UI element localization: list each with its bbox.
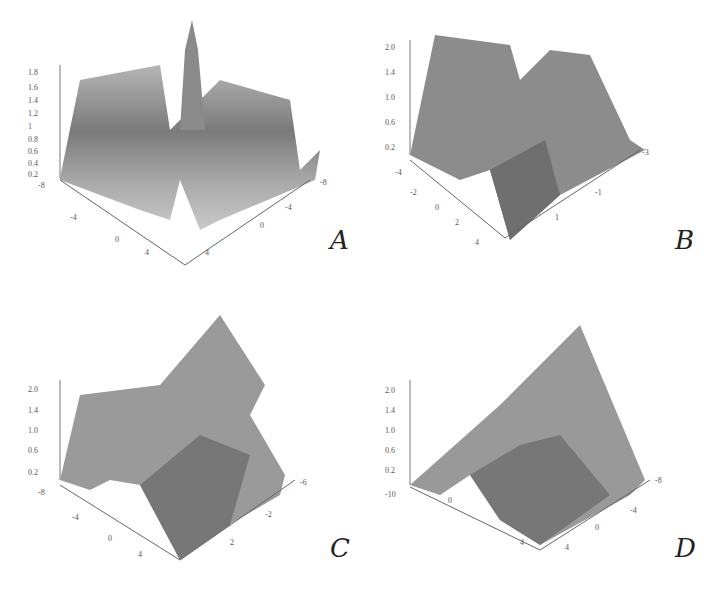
t-tick: -4: [630, 506, 637, 515]
t-tick: 1: [555, 213, 559, 222]
t-tick: -6: [300, 478, 307, 487]
x-tick: -8: [38, 488, 45, 497]
surface-plot-c: 2.0 1.4 1.0 0.6 0.2 -8 -4 0 4 -6 -2 2: [20, 305, 360, 565]
z-tick: 0.2: [385, 466, 395, 475]
t-tick: 2: [230, 538, 234, 547]
z-tick: 1.0: [385, 426, 395, 435]
x-tick: 0: [435, 203, 439, 212]
x-tick: -4: [70, 213, 77, 222]
z-tick: 1: [28, 122, 32, 131]
z-tick: 2.0: [385, 43, 395, 52]
z-tick: 0.2: [385, 143, 395, 152]
x-tick: 4: [145, 248, 149, 257]
t-tick: -4: [285, 203, 292, 212]
panel-b: 2.0 1.4 1.0 0.6 0.2 -4 -2 0 2 4 -3 -1 1 …: [380, 20, 720, 290]
z-tick: 2.0: [28, 385, 38, 394]
t-tick: -8: [655, 476, 662, 485]
x-tick: 4: [520, 538, 524, 547]
x-tick: 0: [448, 496, 452, 505]
z-tick: 0.2: [28, 468, 38, 477]
x-tick: -4: [395, 168, 402, 177]
z-tick: 1.4: [385, 406, 395, 415]
t-tick: 4: [565, 543, 569, 552]
z-tick: 1.0: [28, 426, 38, 435]
t-tick: -8: [320, 178, 327, 187]
z-tick: 1.8: [28, 68, 38, 77]
z-tick: 1.0: [385, 93, 395, 102]
panel-a: -8 -4 0 4 -8 -4 0 4 1.8 1.6 1.4 1.2 1 0.…: [20, 20, 360, 290]
t-tick: -2: [265, 510, 272, 519]
t-tick: -1: [595, 188, 602, 197]
surface-plot-d: 2.0 1.4 1.0 0.6 0.2 -10 0 4 -8 -4 0 4: [380, 305, 720, 565]
x-tick: 4: [475, 238, 479, 247]
z-tick: 0.6: [385, 118, 395, 127]
z-tick: 0.8: [28, 135, 38, 144]
panel-c: 2.0 1.4 1.0 0.6 0.2 -8 -4 0 4 -6 -2 2 C: [20, 305, 360, 575]
z-tick: 1.6: [28, 83, 38, 92]
z-tick: 1.4: [28, 96, 38, 105]
panel-label-c: C: [330, 533, 350, 563]
t-tick: 4: [205, 248, 209, 257]
z-tick: 2.0: [385, 386, 395, 395]
t-tick: 0: [260, 221, 264, 230]
surface-plot-a: -8 -4 0 4 -8 -4 0 4 1.8 1.6 1.4 1.2 1 0.…: [20, 20, 360, 280]
x-tick: 4: [138, 550, 142, 559]
z-tick: 1.4: [385, 68, 395, 77]
z-tick: 1.4: [28, 406, 38, 415]
x-tick: -8: [38, 181, 45, 190]
x-tick: -10: [385, 490, 396, 499]
z-tick: 0.4: [28, 159, 38, 168]
t-tick: -3: [642, 148, 649, 157]
t-tick: 0: [595, 523, 599, 532]
panel-label-a: A: [330, 225, 349, 255]
x-tick: -2: [410, 188, 417, 197]
z-tick: 0.6: [28, 147, 38, 156]
z-tick: 1.2: [28, 109, 38, 118]
panel-label-d: D: [675, 533, 696, 563]
panel-d: 2.0 1.4 1.0 0.6 0.2 -10 0 4 -8 -4 0 4 D: [380, 305, 720, 575]
surface-plot-b: 2.0 1.4 1.0 0.6 0.2 -4 -2 0 2 4 -3 -1 1: [380, 20, 720, 280]
x-tick: 2: [455, 218, 459, 227]
z-tick: 0.6: [28, 446, 38, 455]
x-tick: -4: [72, 513, 79, 522]
z-tick: 0.6: [385, 446, 395, 455]
x-tick: 0: [108, 534, 112, 543]
x-tick: 0: [115, 235, 119, 244]
panel-label-b: B: [675, 225, 694, 255]
z-tick: 0.2: [28, 170, 38, 179]
